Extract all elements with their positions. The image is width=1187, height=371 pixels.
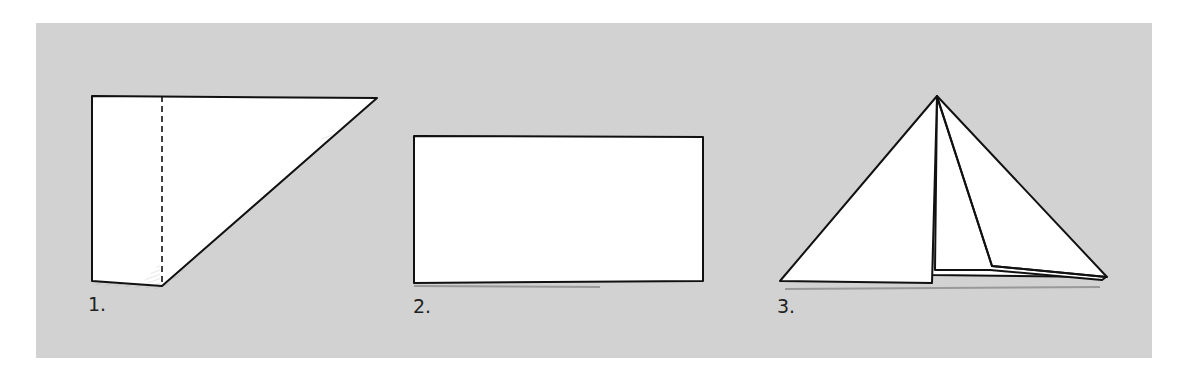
step-3-label: 3. (777, 295, 795, 317)
step-1-figure (92, 96, 377, 289)
folding-diagram (0, 0, 1187, 371)
step-2-label: 2. (413, 295, 431, 317)
step-2-figure (414, 136, 703, 287)
step-3-figure (780, 96, 1107, 289)
step-1-label: 1. (88, 293, 106, 315)
